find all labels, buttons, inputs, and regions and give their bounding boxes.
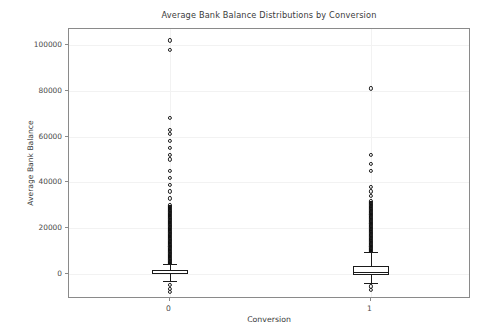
box-iqr: [353, 266, 389, 275]
gridline-horizontal: [69, 182, 469, 183]
outlier-point: [167, 38, 171, 42]
x-axis-tick-mark: [169, 298, 170, 301]
chart-title: Average Bank Balance Distributions by Co…: [68, 10, 470, 20]
whisker-lower: [371, 275, 372, 283]
y-axis-tick-label: 80000: [38, 85, 62, 94]
y-axis-tick-label: 20000: [38, 223, 62, 232]
x-axis-tick-mark: [370, 298, 371, 301]
outlier-point: [167, 290, 171, 294]
gridline-horizontal: [69, 91, 469, 92]
outlier-point: [167, 196, 171, 200]
whisker-upper: [371, 252, 372, 266]
outlier-point: [368, 288, 372, 292]
outlier-point: [368, 153, 372, 157]
outlier-point: [167, 189, 171, 193]
y-axis-tick-label: 40000: [38, 177, 62, 186]
whisker-lower: [170, 274, 171, 281]
whisker-cap-lower: [163, 281, 177, 282]
whisker-cap-upper: [364, 252, 378, 253]
plot-area: [68, 28, 470, 298]
y-axis-tick-label: 0: [57, 268, 62, 277]
x-axis-label: Conversion: [68, 315, 470, 324]
median-line: [152, 273, 188, 274]
x-axis-tick-label: 0: [166, 304, 171, 313]
outlier-point: [167, 153, 171, 157]
outlier-point: [167, 146, 171, 150]
outlier-point: [167, 169, 171, 173]
outlier-point: [167, 139, 171, 143]
x-axis-tick-label: 1: [367, 304, 372, 313]
gridline-horizontal: [69, 228, 469, 229]
outlier-point: [167, 182, 171, 186]
outlier-point: [167, 116, 171, 120]
outlier-point: [368, 189, 372, 193]
y-axis-label: Average Bank Balance: [26, 120, 35, 205]
figure-canvas: Average Bank Balance Distributions by Co…: [0, 0, 492, 333]
outlier-point: [368, 169, 372, 173]
median-line: [353, 272, 389, 273]
gridline-horizontal: [69, 45, 469, 46]
gridline-horizontal: [69, 137, 469, 138]
y-axis-tick-label: 60000: [38, 131, 62, 140]
outlier-point: [167, 47, 171, 51]
outlier-point: [368, 185, 372, 189]
y-axis-tick-label: 100000: [34, 40, 62, 49]
gridline-horizontal: [69, 274, 469, 275]
whisker-cap-upper: [163, 264, 177, 265]
outlier-point: [167, 157, 171, 161]
outlier-point: [368, 162, 372, 166]
outlier-point: [167, 176, 171, 180]
outlier-point: [368, 194, 372, 198]
outlier-point: [167, 128, 171, 132]
